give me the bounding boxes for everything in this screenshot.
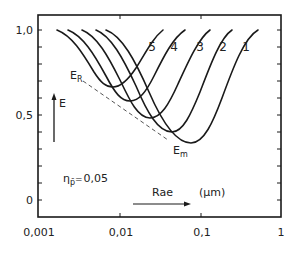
y-axis-label: E [59, 97, 66, 110]
curve-label-3: 3 [196, 40, 204, 54]
y-tick-1-0: 1,0 [16, 24, 34, 37]
x-tick-0-1: 0,1 [193, 226, 211, 239]
eta-annotation: ηp̄=0,05 [63, 172, 108, 187]
er-label: ER [70, 69, 83, 84]
chart: 1,0 0,5 0 0,001 0,01 0,1 1 5 4 3 2 1 ER … [0, 0, 294, 255]
curve-label-1: 1 [242, 40, 250, 54]
x-tick-0-001: 0,001 [23, 226, 55, 239]
curve-3 [82, 30, 210, 118]
y-tick-0-5: 0,5 [16, 109, 34, 122]
x-axis-label: Rae [152, 186, 173, 199]
x-tick-0-01: 0,01 [109, 226, 134, 239]
curve-label-4: 4 [170, 40, 178, 54]
curve-2 [96, 30, 232, 132]
x-axis-unit: (μm) [199, 186, 225, 199]
y-tick-0: 0 [26, 194, 33, 207]
x-axis-arrow [133, 202, 191, 207]
em-label: Em [173, 144, 188, 159]
x-tick-1: 1 [278, 226, 285, 239]
curve-label-5: 5 [148, 40, 156, 54]
curve-label-2: 2 [219, 40, 227, 54]
y-axis-arrow [52, 93, 57, 142]
